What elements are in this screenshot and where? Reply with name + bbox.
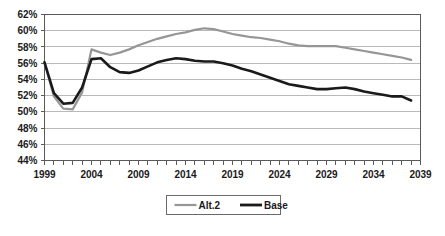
x-axis-tick-label: 2019 bbox=[221, 169, 244, 180]
y-axis-tick-label: 60% bbox=[17, 25, 37, 36]
y-axis-tick-label: 46% bbox=[17, 139, 37, 150]
x-axis-tick-label: 2024 bbox=[268, 169, 291, 180]
x-axis-tick-label: 2034 bbox=[362, 169, 385, 180]
y-axis-tick-label: 56% bbox=[17, 58, 37, 69]
x-axis-tick-label: 2014 bbox=[174, 169, 197, 180]
y-axis-tick-label: 62% bbox=[17, 9, 37, 20]
legend-label-alt-2[interactable]: Alt.2 bbox=[199, 200, 221, 211]
x-axis-tick-labels: 199920042009201420192024202920342039 bbox=[33, 169, 432, 180]
x-axis-tick-label: 2029 bbox=[315, 169, 338, 180]
line-chart: 44%46%48%50%52%54%56%58%60%62% 199920042… bbox=[0, 0, 445, 236]
chart-container: 44%46%48%50%52%54%56%58%60%62% 199920042… bbox=[0, 0, 445, 236]
x-axis-ticks bbox=[45, 161, 421, 165]
data-series bbox=[45, 28, 412, 109]
series-line-base bbox=[45, 58, 412, 103]
gridlines bbox=[41, 15, 421, 161]
y-axis-tick-label: 48% bbox=[17, 123, 37, 134]
y-axis-tick-labels: 44%46%48%50%52%54%56%58%60%62% bbox=[17, 9, 37, 166]
x-axis-tick-label: 1999 bbox=[33, 169, 56, 180]
chart-legend[interactable]: Alt.2Base bbox=[167, 196, 289, 215]
x-axis-tick-label: 2004 bbox=[80, 169, 103, 180]
y-axis-tick-label: 58% bbox=[17, 42, 37, 53]
y-axis-tick-label: 50% bbox=[17, 106, 37, 117]
series-line-alt-2 bbox=[45, 28, 412, 109]
y-axis-tick-label: 54% bbox=[17, 74, 37, 85]
y-axis-tick-label: 52% bbox=[17, 90, 37, 101]
y-axis-tick-label: 44% bbox=[17, 155, 37, 166]
x-axis-tick-label: 2009 bbox=[127, 169, 150, 180]
plot-frame bbox=[45, 15, 421, 161]
x-axis-tick-label: 2039 bbox=[409, 169, 432, 180]
legend-label-base[interactable]: Base bbox=[264, 200, 288, 211]
